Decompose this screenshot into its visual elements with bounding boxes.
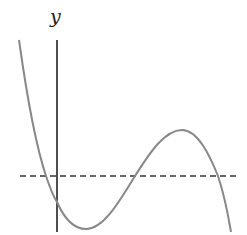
- plot-svg: [0, 0, 247, 235]
- y-axis-label: y: [50, 6, 61, 26]
- cubic-curve: [19, 40, 231, 232]
- figure: y: [0, 0, 247, 235]
